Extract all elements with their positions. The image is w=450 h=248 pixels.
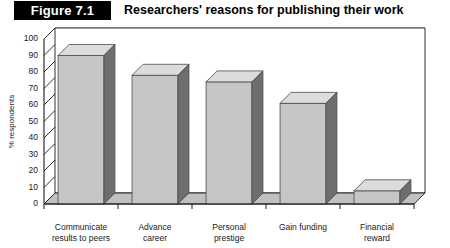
y-axis-tick-label: 50 — [29, 116, 39, 126]
y-axis-tick-label: 100 — [24, 33, 38, 43]
x-axis-tick-label: Personal — [212, 222, 246, 232]
y-axis-tick-label: 10 — [29, 182, 39, 192]
y-axis-tick-label: 80 — [29, 66, 39, 76]
page-title: Researchers' reasons for publishing thei… — [124, 2, 403, 19]
x-axis-tick-label: career — [143, 233, 167, 243]
x-axis-tick-label: Advance — [138, 222, 171, 232]
bar-column — [280, 92, 337, 204]
y-axis-tick-label: 20 — [29, 165, 39, 175]
bar-column — [58, 45, 115, 205]
y-axis-tick-label: 60 — [29, 99, 39, 109]
y-axis-tick-label: 70 — [29, 83, 39, 93]
x-axis-tick-label: reward — [364, 233, 390, 243]
chart-canvas: 0102030405060708090100 Communicateresult… — [0, 24, 450, 248]
bar-column — [206, 71, 263, 204]
y-axis-title-text: % respondents — [7, 95, 16, 148]
x-axis-tick-label: Gain funding — [279, 222, 327, 232]
y-axis-tick-label: 40 — [29, 132, 39, 142]
x-axis-tick-label: Communicate — [55, 222, 108, 232]
x-axis-tick-labels: Communicateresults to peersAdvancecareer… — [52, 222, 394, 243]
y-axis-title: % respondents — [7, 95, 16, 148]
figure-title-bar: Figure 7.1 Researchers' reasons for publ… — [0, 0, 450, 24]
y-axis-tick-label: 0 — [33, 198, 38, 208]
x-axis-tick-label: results to peers — [52, 233, 110, 243]
bar-column — [354, 180, 411, 204]
figure-number-tag: Figure 7.1 — [14, 1, 111, 20]
bar-column — [132, 64, 189, 204]
y-axis-tick-label: 30 — [29, 149, 39, 159]
y-axis-tick-label: 90 — [29, 50, 39, 60]
x-axis-tick-label: prestige — [214, 233, 245, 243]
x-axis-tick-label: Financial — [360, 222, 394, 232]
bar-chart: 0102030405060708090100 Communicateresult… — [0, 24, 450, 248]
y-axis-tick-labels: 0102030405060708090100 — [24, 33, 38, 208]
